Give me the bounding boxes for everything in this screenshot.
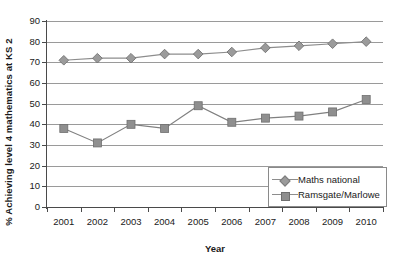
x-axis-title: Year: [47, 243, 383, 254]
series-line: [64, 42, 366, 61]
data-point-square: [194, 102, 202, 110]
legend-item-ramsgate-marlowe[interactable]: Ramsgate/Marlowe: [272, 187, 382, 202]
data-point-diamond: [93, 53, 103, 63]
data-point-diamond: [294, 41, 304, 51]
series-1: [59, 37, 371, 65]
line-chart: % Achieving level 4 mathematics at KS 2 …: [0, 0, 395, 264]
data-point-square: [161, 124, 169, 132]
legend-label: Ramsgate/Marlowe: [298, 189, 380, 200]
data-point-diamond: [59, 55, 69, 65]
data-point-square: [228, 118, 236, 126]
data-point-diamond: [261, 43, 271, 53]
data-point-diamond: [193, 49, 203, 59]
data-point-diamond: [328, 39, 338, 49]
diamond-marker-icon: [272, 174, 298, 186]
data-point-square: [362, 96, 370, 104]
series-2: [60, 96, 370, 147]
legend-item-maths-national[interactable]: Maths national: [272, 172, 382, 187]
legend-label: Maths national: [298, 174, 360, 185]
data-point-square: [93, 139, 101, 147]
series-line: [64, 100, 366, 143]
data-point-square: [60, 124, 68, 132]
data-point-diamond: [227, 47, 237, 57]
data-point-square: [127, 120, 135, 128]
data-point-square: [329, 108, 337, 116]
series-layer: [0, 0, 395, 264]
data-point-diamond: [160, 49, 170, 59]
data-point-diamond: [361, 37, 371, 47]
square-marker-icon: [272, 189, 298, 201]
data-point-diamond: [126, 53, 136, 63]
data-point-square: [261, 114, 269, 122]
data-point-square: [295, 112, 303, 120]
chart-legend: Maths national Ramsgate/Marlowe: [268, 167, 387, 207]
